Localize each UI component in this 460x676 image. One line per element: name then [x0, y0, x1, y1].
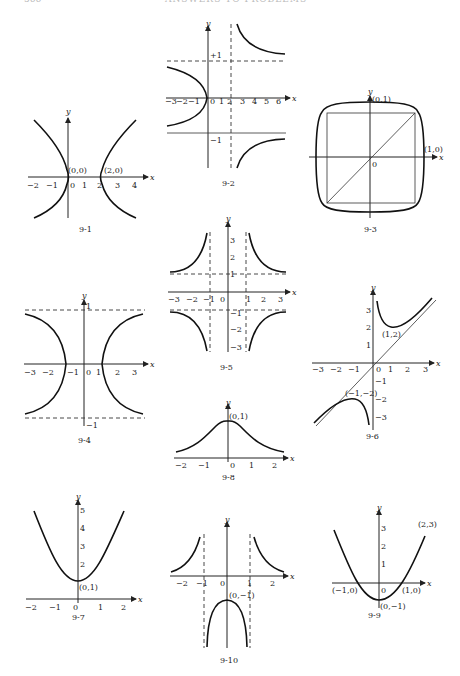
figure-caption: 9-4	[78, 436, 91, 445]
svg-text:−2: −2	[42, 368, 54, 377]
y-tick-labels: 3 2 1 −1 −2 −3	[230, 236, 242, 352]
y-axis-label: y	[376, 503, 382, 512]
x-tick-labels: −3 −2 −1 0 1 2 3	[168, 295, 283, 304]
svg-text:0: 0	[376, 365, 381, 374]
svg-text:0: 0	[73, 603, 78, 612]
curve-upper-left	[170, 233, 207, 272]
svg-text:2: 2	[227, 97, 232, 106]
svg-text:4: 4	[80, 524, 85, 533]
y-axis-label: y	[75, 492, 81, 501]
svg-text:−1: −1	[46, 181, 58, 190]
y-axis-label: y	[65, 107, 71, 116]
point-label: (1,0)	[402, 586, 421, 595]
svg-text:−1: −1	[188, 97, 200, 106]
svg-text:−1: −1	[375, 377, 387, 386]
origin-label: 0	[372, 160, 377, 169]
svg-text:−2: −2	[175, 461, 187, 470]
curve-lower-branch	[314, 399, 369, 425]
svg-text:0: 0	[220, 579, 225, 588]
svg-text:−2: −2	[27, 181, 39, 190]
svg-text:−3: −3	[168, 295, 180, 304]
svg-text:1: 1	[381, 560, 386, 569]
svg-text:0: 0	[210, 97, 215, 106]
svg-text:2: 2	[97, 181, 102, 190]
svg-text:−3: −3	[375, 413, 387, 422]
x-axis-label: x	[436, 359, 441, 368]
x-axis-label: x	[138, 595, 143, 604]
y-axis-label: y	[224, 515, 230, 524]
point-label: (0,−1)	[229, 591, 255, 600]
y-axis-label: y	[225, 398, 231, 407]
figure-caption: 9-1	[79, 225, 92, 234]
x-axis-label: x	[427, 579, 432, 588]
svg-text:−2: −2	[176, 579, 188, 588]
svg-text:−3: −3	[24, 368, 36, 377]
figure-caption: 9-10	[220, 656, 238, 665]
svg-text:−3: −3	[312, 365, 324, 374]
svg-text:0: 0	[86, 368, 91, 377]
curve-left-branch	[171, 537, 200, 572]
x-tick-labels: −2 −1 0 1 2	[176, 579, 275, 588]
y-tick-label: 1	[86, 302, 91, 311]
x-axis-label: x	[150, 360, 155, 369]
figure-9-3: x y 0 (0,1) (1,0) 9-3	[309, 87, 444, 234]
parabola-curve	[34, 511, 124, 581]
point-label: (0,1)	[372, 95, 391, 104]
y-axis-label: y	[81, 291, 87, 300]
point-label: (0,0)	[68, 166, 87, 175]
svg-text:−1: −1	[196, 579, 208, 588]
svg-text:1: 1	[249, 461, 254, 470]
x-axis-label: x	[290, 572, 295, 581]
curve-lower-left	[170, 312, 207, 351]
x-tick-labels: −2 −1 0 1 2	[175, 461, 277, 470]
svg-text:3: 3	[278, 295, 283, 304]
y-tick-label: +1	[210, 51, 222, 60]
figure-caption: 9-6	[366, 432, 379, 441]
figure-caption: 9-9	[368, 611, 381, 620]
svg-text:3: 3	[423, 365, 428, 374]
svg-text:3: 3	[132, 368, 137, 377]
point-label: (−1,0)	[332, 586, 358, 595]
svg-text:1: 1	[388, 365, 393, 374]
figure-9-5: x y −3 −2 −1 0 1 2 3 3 2 1 −1 −2 −3 9-5	[168, 214, 297, 372]
svg-text:1: 1	[366, 341, 371, 350]
svg-text:6: 6	[276, 97, 281, 106]
svg-text:0: 0	[70, 181, 75, 190]
svg-text:−3: −3	[230, 343, 242, 352]
svg-text:−2: −2	[186, 295, 198, 304]
y-tick-labels: 5 4 3 2	[80, 506, 85, 569]
x-axis-label: x	[290, 454, 295, 463]
svg-text:4: 4	[252, 97, 257, 106]
svg-text:1: 1	[230, 270, 235, 279]
svg-text:1: 1	[247, 579, 252, 588]
point-label: (2,0)	[104, 166, 123, 175]
point-label: (0,1)	[79, 583, 98, 592]
x-tick-label: 0	[381, 586, 386, 595]
svg-text:−1: −1	[49, 603, 61, 612]
x-axis-label: x	[150, 173, 155, 182]
figure-9-8: x y −2 −1 0 1 2 (0,1) 9-8	[174, 398, 295, 482]
svg-text:3: 3	[115, 181, 120, 190]
svg-text:2: 2	[381, 542, 386, 551]
svg-text:−2: −2	[25, 603, 37, 612]
svg-text:2: 2	[121, 603, 126, 612]
point-label: (1,0)	[424, 145, 443, 154]
figure-9-4: x y −3 −2 −1 0 1 2 3 1 −1 9-4	[24, 291, 155, 445]
x-tick-labels: −2 −1 0 1 2	[25, 603, 126, 612]
figure-caption: 9-5	[220, 363, 233, 372]
curve-upper-right	[249, 233, 286, 272]
svg-text:1: 1	[82, 181, 87, 190]
figure-9-1: x y −2 −1 0 1 2 3 4 (0,0) (2,0) 9-1	[27, 107, 155, 234]
svg-text:3: 3	[381, 524, 386, 533]
svg-text:1: 1	[246, 295, 251, 304]
svg-text:1: 1	[219, 97, 224, 106]
hyperbola-left-branch	[34, 120, 69, 218]
figure-caption: 9-2	[222, 179, 235, 188]
svg-text:5: 5	[80, 506, 85, 515]
svg-text:1: 1	[98, 603, 103, 612]
x-tick-labels: −3 −2 −1 0 1 2 3	[24, 368, 137, 377]
figure-9-6: x y −3 −2 −1 0 1 2 3 3 2 1 −1 −2 −3 (1,2…	[312, 283, 441, 441]
curve-upper-right-branch	[237, 24, 285, 54]
svg-text:2: 2	[261, 295, 266, 304]
y-axis-label: y	[370, 283, 376, 292]
